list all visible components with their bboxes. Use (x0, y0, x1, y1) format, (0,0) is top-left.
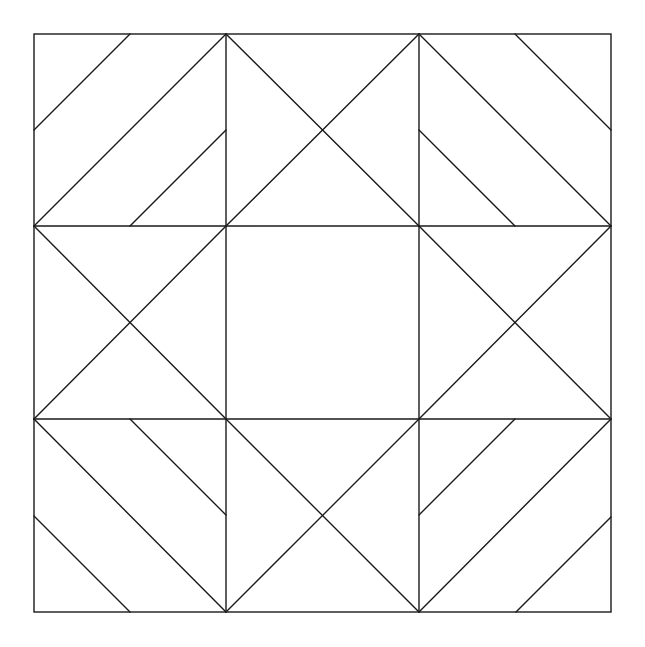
outer-border (34, 34, 611, 612)
diagonal-line (516, 517, 611, 612)
cell-top-right (419, 34, 611, 226)
cell-diagonals (34, 34, 611, 612)
diagonal-line (419, 130, 515, 226)
cell-middle-left (34, 226, 226, 419)
cell-top-center (226, 34, 419, 226)
diagonal-line (130, 130, 226, 226)
diagonal-line (34, 34, 130, 130)
diagonal-line (34, 419, 226, 612)
diagonal-line (419, 419, 515, 515)
diagonal-line (34, 516, 130, 612)
quilt-block-diagram (0, 0, 645, 647)
cell-bottom-center (226, 419, 419, 612)
diagonal-line (419, 419, 611, 612)
diagonal-line (130, 419, 226, 515)
grid-lines (34, 34, 611, 612)
cell-bottom-right (419, 419, 611, 612)
cell-middle-right (419, 226, 611, 419)
diagonal-line (419, 34, 611, 226)
cell-bottom-left (34, 419, 226, 612)
cell-top-left (34, 34, 226, 226)
diagonal-line (34, 34, 226, 226)
diagonal-line (515, 34, 611, 130)
